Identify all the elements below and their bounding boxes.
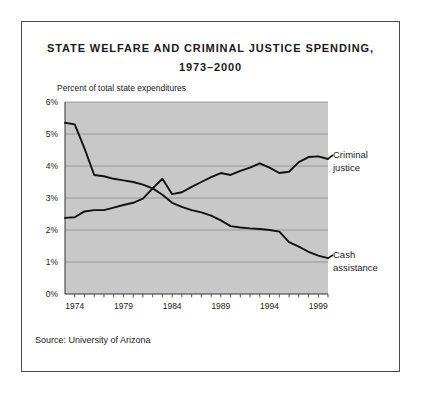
series-label-cash-assistance-line2: assistance xyxy=(333,262,378,275)
x-tick-labels-group: 197419791984198919941999 xyxy=(65,301,328,311)
y-tick-labels-group: 0%1%2%3%4%5%6% xyxy=(46,97,59,299)
x-tick-marks-group xyxy=(75,294,328,298)
chart-frame: STATE WELFARE AND CRIMINAL JUSTICE SPEND… xyxy=(21,21,400,372)
x-tick-label-1979: 1979 xyxy=(114,301,133,311)
y-tick-label-1%: 1% xyxy=(46,257,59,267)
x-tick-label-1984: 1984 xyxy=(163,301,182,311)
series-label-criminal-justice: Criminal justice xyxy=(333,149,368,174)
series-label-criminal-justice-line1: Criminal xyxy=(333,149,368,162)
x-tick-label-1994: 1994 xyxy=(260,301,279,311)
x-tick-label-1989: 1989 xyxy=(211,301,230,311)
line-chart-plot: 0%1%2%3%4%5%6% 197419791984198919941999 xyxy=(22,22,401,373)
x-tick-label-1999: 1999 xyxy=(309,301,328,311)
x-tick-label-1974: 1974 xyxy=(65,301,84,311)
y-tick-label-6%: 6% xyxy=(46,97,59,107)
y-tick-label-3%: 3% xyxy=(46,193,59,203)
y-tick-label-4%: 4% xyxy=(46,161,59,171)
series-label-cash-assistance: Cash assistance xyxy=(333,249,378,274)
series-label-criminal-justice-line2: justice xyxy=(333,162,368,175)
source-note: Source: University of Arizona xyxy=(35,335,151,345)
y-tick-label-0%: 0% xyxy=(46,289,59,299)
y-tick-label-2%: 2% xyxy=(46,225,59,235)
y-tick-label-5%: 5% xyxy=(46,129,59,139)
series-label-cash-assistance-line1: Cash xyxy=(333,249,378,262)
